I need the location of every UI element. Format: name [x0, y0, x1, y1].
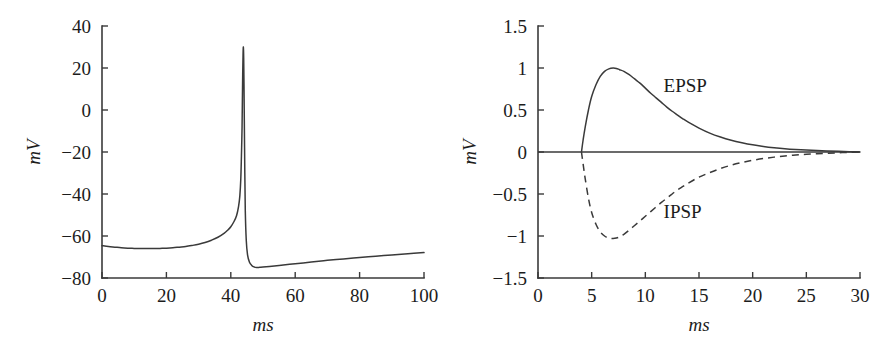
chart-panel-action-potential: −80−60−40−2002040020406080100msmV: [0, 0, 447, 349]
psp-comparison-plot: −1.5−1−0.500.511.5051015202530EPSPIPSPms…: [447, 0, 894, 349]
y-tick-label: 20: [72, 58, 91, 79]
y-tick-label: 0.5: [503, 100, 527, 121]
series-label-epsp: EPSP: [664, 75, 707, 96]
y-tick-label: −60: [61, 226, 91, 247]
y-tick-label: −20: [61, 142, 91, 163]
x-tick-label: 0: [533, 285, 543, 306]
y-tick-label: −1.5: [493, 268, 527, 289]
x-tick-label: 80: [350, 285, 369, 306]
x-tick-label: 25: [797, 285, 816, 306]
y-tick-label: 1.5: [503, 16, 527, 37]
x-tick-label: 10: [636, 285, 655, 306]
y-tick-label: 40: [72, 16, 91, 37]
y-tick-label: −40: [61, 184, 91, 205]
x-tick-label: 5: [587, 285, 597, 306]
x-tick-label: 15: [690, 285, 709, 306]
y-tick-label: −0.5: [493, 184, 527, 205]
y-axis-title: mV: [459, 137, 480, 165]
series-curve-membrane-potential: [102, 47, 424, 268]
action-potential-plot: −80−60−40−2002040020406080100msmV: [0, 0, 447, 349]
y-tick-label: −80: [61, 268, 91, 289]
series-curve-epsp: [581, 68, 860, 152]
x-tick-label: 60: [286, 285, 305, 306]
x-tick-label: 30: [851, 285, 870, 306]
x-tick-label: 40: [221, 285, 240, 306]
y-tick-label: 1: [518, 58, 528, 79]
series-label-ipsp: IPSP: [664, 201, 702, 222]
x-axis-title: ms: [688, 314, 709, 335]
x-axis-title: ms: [252, 314, 273, 335]
chart-panel-psp-comparison: −1.5−1−0.500.511.5051015202530EPSPIPSPms…: [447, 0, 894, 349]
y-tick-label: −1: [507, 226, 527, 247]
y-tick-label: 0: [518, 142, 528, 163]
x-tick-label: 20: [157, 285, 176, 306]
y-tick-label: 0: [82, 100, 92, 121]
series-curve-ipsp: [581, 152, 860, 239]
y-axis-title: mV: [23, 137, 44, 165]
x-tick-label: 100: [410, 285, 439, 306]
figure-root: −80−60−40−2002040020406080100msmV −1.5−1…: [0, 0, 894, 349]
x-tick-label: 20: [743, 285, 762, 306]
x-tick-label: 0: [97, 285, 107, 306]
